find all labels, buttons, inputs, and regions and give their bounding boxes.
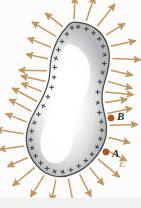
- electric-field-arrow: [111, 70, 132, 75]
- point-b-label: B: [117, 111, 124, 122]
- electric-field-arrow: [46, 13, 63, 27]
- electric-field-arrow: [31, 175, 44, 196]
- electric-field-arrow: [109, 124, 137, 125]
- electric-field-conductor-figure: B A E: [0, 0, 141, 208]
- electric-field-arrow: [98, 159, 119, 177]
- electric-field-arrow: [28, 38, 51, 47]
- electric-field-arrow: [108, 137, 129, 142]
- field-e-label: E: [119, 158, 126, 169]
- electric-field-arrow: [12, 88, 37, 101]
- electric-field-arrow: [112, 58, 140, 59]
- bottom-page-band: [0, 198, 141, 208]
- electric-field-arrow: [90, 167, 104, 184]
- electric-field-arrow: [86, 0, 94, 21]
- electric-field-arrow: [6, 114, 26, 122]
- electric-field-arrow: [10, 99, 32, 111]
- electric-field-arrow: [105, 99, 127, 102]
- electric-field-arrow: [108, 81, 132, 88]
- electric-field-arrow: [27, 54, 49, 58]
- electric-field-arrow: [21, 76, 45, 81]
- electric-field-arrow: [32, 22, 56, 36]
- electric-field-arrow: [0, 146, 24, 150]
- electric-field-arrow: [111, 41, 135, 46]
- electric-field-arrow: [74, 0, 75, 19]
- electric-field-arrow: [97, 4, 114, 26]
- electric-field-arrow: [13, 168, 35, 186]
- electric-field-arrow: [0, 129, 24, 133]
- electric-field-arrow: [106, 24, 125, 35]
- electric-field-arrow: [8, 158, 28, 167]
- surface-point-b: [108, 115, 114, 121]
- diagram-canvas: [0, 0, 141, 208]
- electric-field-arrow: [19, 70, 47, 71]
- electric-field-arrow: [80, 174, 91, 196]
- surface-point-a: [103, 149, 109, 155]
- electric-field-arrow: [22, 83, 42, 91]
- electric-field-arrow: [105, 92, 133, 95]
